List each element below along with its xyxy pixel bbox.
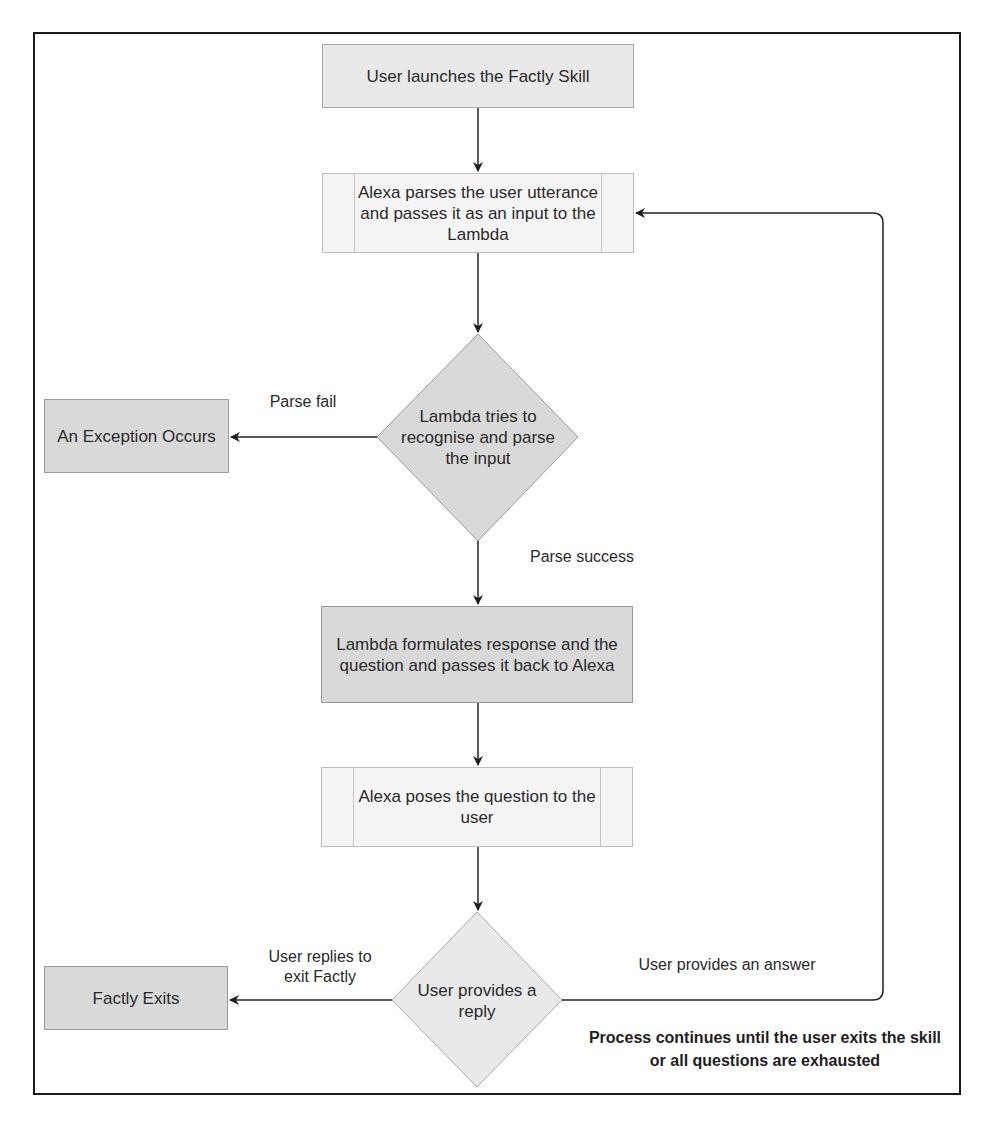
node-alexa-parse-label: Alexa parses the user utterance and pass… — [323, 182, 633, 245]
node-lambda-decision-label: Lambda tries to recognise and parse the … — [392, 406, 564, 469]
node-start: User launches the Factly Skill — [322, 44, 634, 108]
node-user-decision-label: User provides a reply — [410, 980, 544, 1022]
edge-label-user-answer: User provides an answer — [612, 955, 842, 975]
node-alexa-pose: Alexa poses the question to the user — [321, 767, 633, 847]
edge-label-parse-fail: Parse fail — [248, 392, 358, 412]
process-note: Process continues until the user exits t… — [580, 1026, 950, 1072]
node-user-decision: User provides a reply — [410, 978, 544, 1024]
node-exception-label: An Exception Occurs — [57, 426, 216, 447]
node-alexa-pose-label: Alexa poses the question to the user — [322, 786, 632, 828]
node-lambda-response: Lambda formulates response and the quest… — [321, 606, 633, 703]
edge-label-user-exit: User replies to exit Factly — [255, 947, 385, 987]
node-alexa-parse: Alexa parses the user utterance and pass… — [322, 173, 634, 253]
node-lambda-response-label: Lambda formulates response and the quest… — [322, 634, 632, 676]
node-exception: An Exception Occurs — [44, 399, 229, 473]
edge-label-parse-success: Parse success — [512, 547, 652, 567]
node-exit-label: Factly Exits — [93, 988, 180, 1009]
node-exit: Factly Exits — [44, 966, 228, 1030]
node-lambda-decision: Lambda tries to recognise and parse the … — [392, 395, 564, 479]
node-start-label: User launches the Factly Skill — [367, 66, 590, 87]
